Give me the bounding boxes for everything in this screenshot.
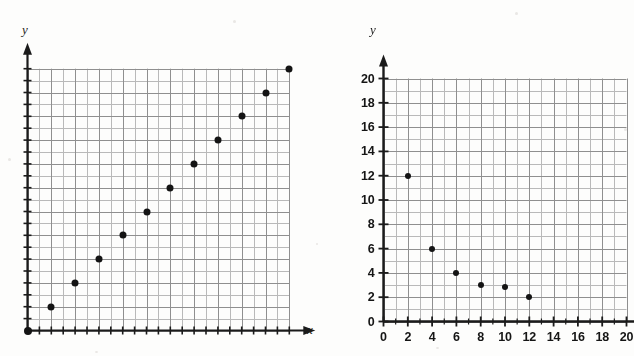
right-scatter-plot: y 0246810121416182002468101214161820 (320, 0, 634, 356)
left-plot-data-point (119, 232, 126, 239)
right-plot-data-point (502, 284, 508, 290)
right-plot-point-layer (320, 0, 634, 356)
left-plot-data-point (191, 160, 198, 167)
scan-speckle (233, 20, 236, 23)
right-plot-data-point (405, 173, 411, 179)
scan-speckle (316, 243, 318, 245)
scan-speckle (624, 128, 627, 131)
left-plot-data-point (24, 327, 32, 335)
right-plot-data-point (429, 246, 435, 252)
right-plot-data-point (478, 282, 484, 288)
scan-speckle (515, 12, 518, 15)
left-plot-data-point (72, 279, 79, 286)
right-plot-data-point (526, 294, 532, 300)
left-plot-data-point (214, 137, 221, 144)
left-plot-data-point (48, 303, 55, 310)
scan-speckle (95, 351, 98, 353)
left-plot-data-point (262, 89, 269, 96)
left-scatter-plot: y x (0, 0, 320, 356)
left-plot-data-point (286, 65, 293, 72)
left-plot-data-point (238, 113, 245, 120)
scan-speckle (436, 347, 439, 349)
left-plot-point-layer (0, 0, 320, 356)
left-plot-data-point (167, 184, 174, 191)
right-plot-data-point (453, 270, 459, 276)
worksheet-page: y x y 0246810121416182002468101214161820 (0, 0, 634, 356)
scan-speckle (8, 158, 11, 161)
left-plot-data-point (143, 208, 150, 215)
left-plot-data-point (95, 256, 102, 263)
